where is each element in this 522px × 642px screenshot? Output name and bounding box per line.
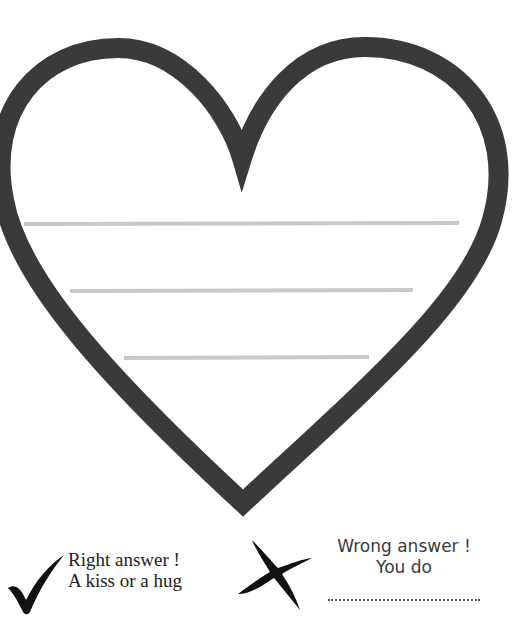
- answer-line-3[interactable]: [124, 357, 369, 358]
- cross-mark-icon: [234, 534, 314, 614]
- heart-outline: [1, 47, 499, 503]
- right-answer-legend: Right answer ! A kiss or a hug: [68, 549, 182, 591]
- answer-line-1[interactable]: [24, 223, 459, 224]
- wrong-answer-task: You do: [322, 557, 486, 578]
- right-answer-title: Right answer !: [68, 549, 182, 570]
- right-answer-reward: A kiss or a hug: [68, 570, 182, 591]
- check-mark-icon: [6, 552, 66, 616]
- answer-line-2[interactable]: [70, 290, 413, 291]
- wrong-answer-title: Wrong answer !: [322, 536, 486, 557]
- wrong-answer-blank-line[interactable]: [328, 599, 480, 601]
- wrong-answer-legend: Wrong answer ! You do: [322, 536, 486, 578]
